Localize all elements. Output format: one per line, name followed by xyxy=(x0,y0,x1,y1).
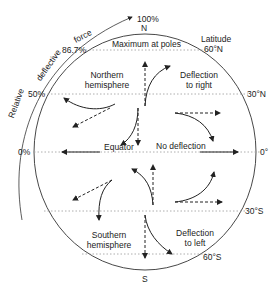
latitude-label: Latitude xyxy=(201,34,231,44)
lat-60n-label: 60°N xyxy=(204,44,223,54)
lat-30s-label: 30°S xyxy=(245,206,264,216)
lat-30n-label: 30°N xyxy=(247,89,266,99)
lat-0-label: 0° xyxy=(260,147,268,157)
no-deflection-label: No deflection xyxy=(156,141,206,151)
northern-hemisphere-label: Northernhemisphere xyxy=(82,70,132,90)
lat-60s-label: 60°S xyxy=(203,252,222,262)
percent-86-label: 86.7% xyxy=(62,45,86,55)
deflection-left-label: Deflectionto left xyxy=(170,228,220,248)
percent-0-label: 0% xyxy=(18,147,30,157)
equator-label: Equator xyxy=(104,142,134,152)
south-pole-label: S xyxy=(142,274,148,284)
maximum-label: Maximum at poles xyxy=(112,39,181,49)
percent-50-label: 50% xyxy=(28,89,45,99)
north-pole-label: N xyxy=(141,23,147,33)
deflection-right-label: Deflectionto right xyxy=(174,70,224,90)
southern-hemisphere-label: Southernhemisphere xyxy=(84,230,134,250)
